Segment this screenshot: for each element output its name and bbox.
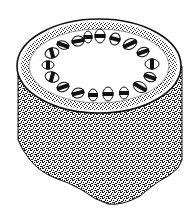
stem-illustration — [0, 0, 196, 211]
stem-diagram: Stem cross-section illustration — [0, 0, 196, 211]
